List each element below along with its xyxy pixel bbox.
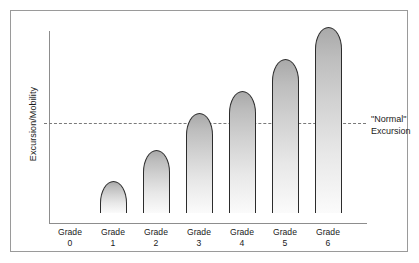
x-tick-label-line-1: Grade (134, 227, 178, 238)
x-tick-label-grade-3: Grade3 (177, 227, 221, 249)
x-tick-label-line-1: Grade (91, 227, 135, 238)
bar-grade-5 (272, 59, 299, 213)
bar-grade-6 (315, 27, 342, 213)
chart-frame-border: Excursion/Mobility "Normal" Excursion Gr… (10, 10, 408, 252)
bar-grade-2 (143, 150, 170, 213)
x-tick-label-line-1: Grade (306, 227, 350, 238)
x-tick-label-line-2: 0 (48, 238, 92, 249)
x-tick-label-grade-0: Grade0 (48, 227, 92, 249)
bars-layer (11, 11, 409, 213)
x-tick-label-line-2: 1 (91, 238, 135, 249)
x-tick-label-line-1: Grade (263, 227, 307, 238)
x-tick-label-line-2: 5 (263, 238, 307, 249)
x-tick-label-line-2: 3 (177, 238, 221, 249)
bar-grade-4 (229, 91, 256, 213)
x-tick-label-grade-1: Grade1 (91, 227, 135, 249)
x-tick-label-grade-5: Grade5 (263, 227, 307, 249)
x-tick-label-grade-6: Grade6 (306, 227, 350, 249)
x-axis-line (49, 223, 367, 224)
bar-grade-1 (100, 181, 127, 213)
x-tick-label-grade-4: Grade4 (220, 227, 264, 249)
x-tick-label-line-1: Grade (220, 227, 264, 238)
x-tick-label-line-2: 2 (134, 238, 178, 249)
x-tick-label-grade-2: Grade2 (134, 227, 178, 249)
x-tick-label-line-1: Grade (177, 227, 221, 238)
chart-figure: Excursion/Mobility "Normal" Excursion Gr… (0, 0, 419, 263)
x-tick-label-line-2: 6 (306, 238, 350, 249)
bar-grade-3 (186, 113, 213, 213)
x-tick-label-line-2: 4 (220, 238, 264, 249)
x-tick-label-line-1: Grade (48, 227, 92, 238)
